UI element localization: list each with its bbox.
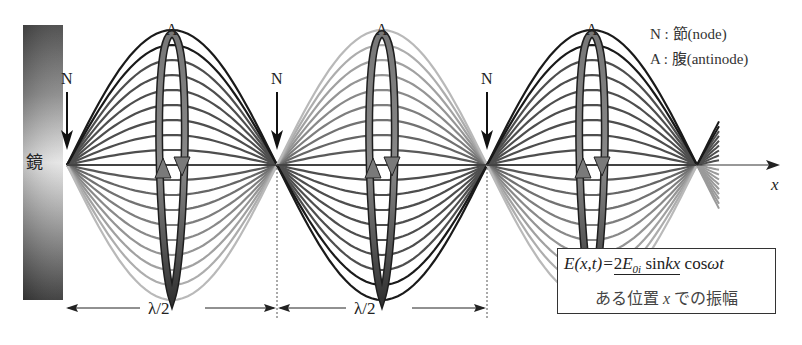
antinode-label-1: A (166, 21, 178, 38)
node-label-1: N (61, 70, 73, 87)
half-wavelength-label-1: λ/2 (148, 299, 169, 318)
formula-subscript: 0i (633, 263, 642, 275)
formula-coef: 2 (614, 254, 623, 273)
node-label-2: N (271, 70, 283, 87)
caption-pre: ある位置 (595, 290, 663, 307)
formula-box: E(x,t)=2E0i sinkx cosωt ある位置 x での振幅 (557, 248, 776, 314)
wave-curve (487, 165, 697, 240)
legend-antinode: A : 腹(antinode) (650, 47, 748, 72)
formula-cos: cos (680, 254, 707, 273)
wave-curve (67, 90, 277, 165)
formula-cos-arg: ωt (707, 254, 724, 273)
x-axis-label: x (770, 175, 779, 194)
formula-E: E (622, 254, 632, 273)
wave-curve (277, 90, 487, 165)
formula-equation: E(x,t)=2E0i sinkx cosωt (564, 254, 724, 275)
node-markers: NNN (61, 70, 493, 150)
wave-curve (67, 165, 277, 240)
caption-var: x (663, 290, 670, 307)
formula-lhs: E(x,t)= (564, 254, 614, 273)
x-axis (67, 160, 780, 170)
formula-caption: ある位置 x での振幅 (558, 285, 775, 309)
formula-amplitude: 2E0i sinkx (614, 254, 681, 275)
half-wavelength-label-2: λ/2 (354, 299, 375, 318)
mirror-label: 鏡 (26, 153, 43, 172)
legend: N : 節(node) A : 腹(antinode) (650, 22, 748, 72)
antinode-label-2: A (376, 21, 388, 38)
node-label-3: N (481, 70, 493, 87)
wave-curve (487, 90, 697, 165)
legend-node: N : 節(node) (650, 22, 748, 47)
formula-sin-arg: kx (665, 254, 680, 273)
formula-sin: sin (641, 254, 665, 273)
caption-post: での振幅 (670, 290, 738, 307)
wave-curve (277, 165, 487, 240)
antinode-label-3: A (586, 21, 598, 38)
